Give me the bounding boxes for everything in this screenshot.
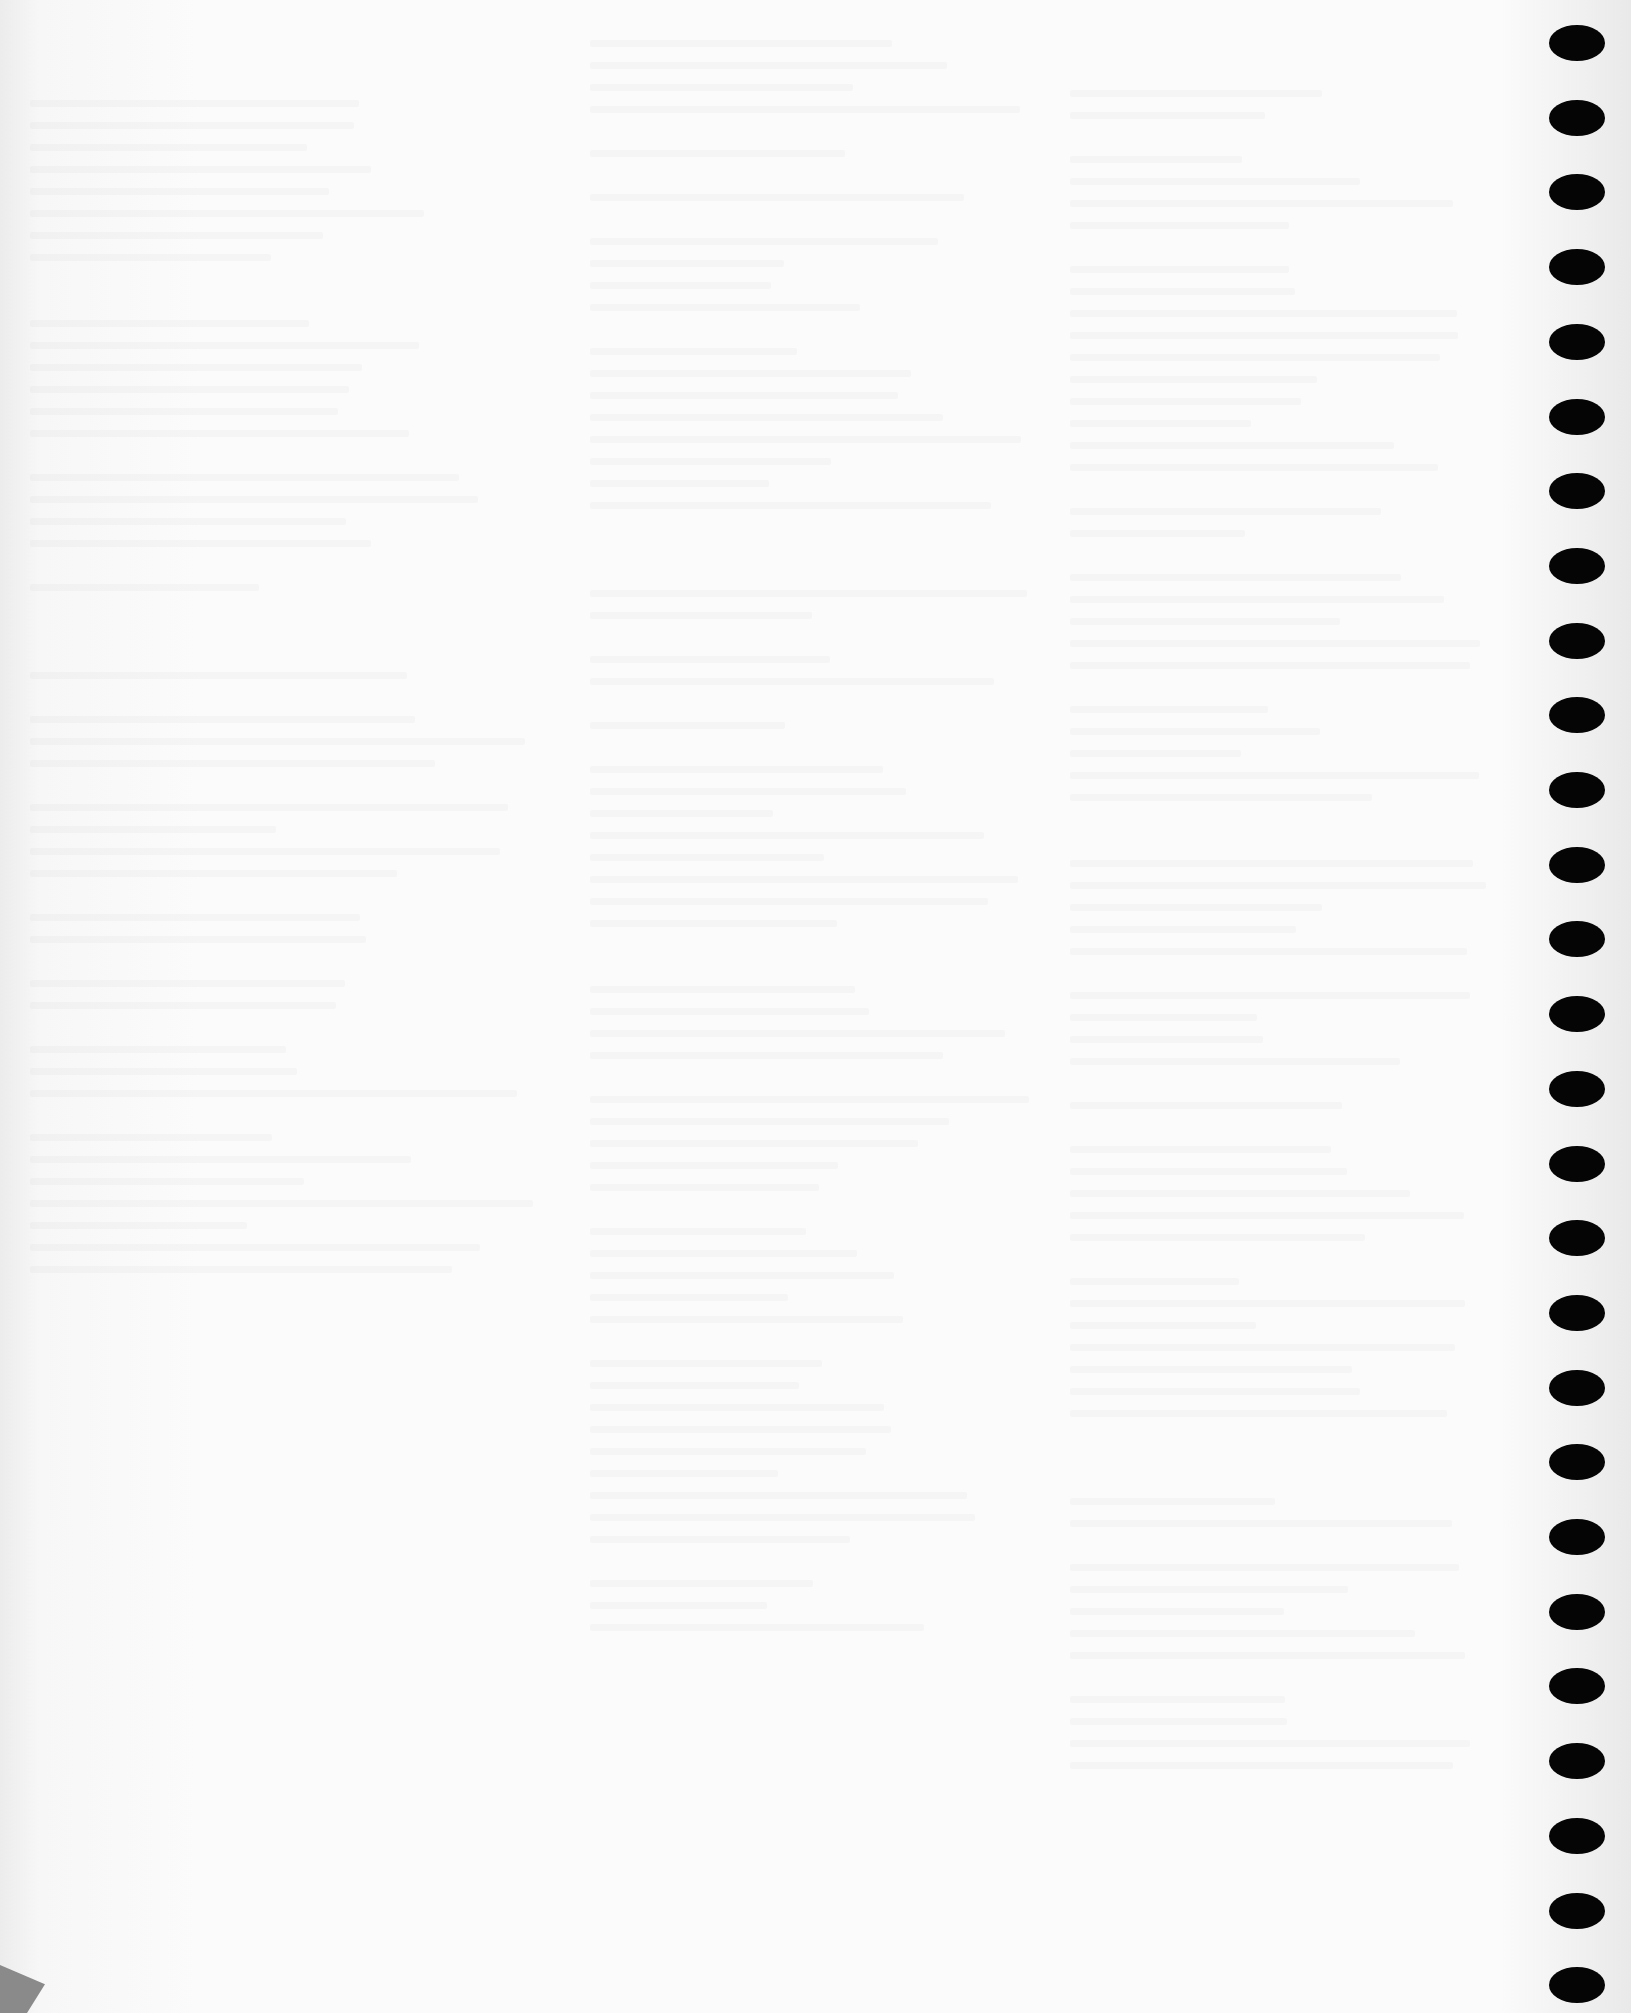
bleed-through-line (1070, 1300, 1465, 1307)
bleed-through-line (1070, 706, 1268, 713)
bleed-through-line (30, 584, 259, 591)
bleed-through-line (1070, 332, 1458, 339)
bleed-through-line (1070, 728, 1320, 735)
bleed-through-line (590, 1184, 819, 1191)
bleed-through-line (1070, 310, 1457, 317)
bleed-through-line (1070, 948, 1467, 955)
binding-hole (1549, 473, 1605, 509)
bleed-through-line (1070, 354, 1440, 361)
bleed-through-line (1070, 398, 1301, 405)
bleed-through-line (1070, 1168, 1347, 1175)
bleed-through-line (590, 282, 771, 289)
bleed-through-line (30, 122, 354, 129)
bleed-through-line (1070, 618, 1340, 625)
bleed-through-line (1070, 1344, 1455, 1351)
bleed-through-line (590, 722, 785, 729)
bleed-through-line (30, 210, 424, 217)
binding-hole (1549, 1146, 1605, 1182)
bleed-through-line (1070, 794, 1372, 801)
bleed-through-line (30, 430, 409, 437)
bleed-through-line (590, 1426, 891, 1433)
bleed-through-line (590, 1228, 806, 1235)
bleed-through-line (1070, 1234, 1365, 1241)
binding-hole (1549, 1743, 1605, 1779)
bleed-through-line (590, 436, 1021, 443)
binding-hole (1549, 1220, 1605, 1256)
binding-hole (1549, 399, 1605, 435)
bleed-through-line (30, 540, 371, 547)
bleed-through-line (1070, 1630, 1415, 1637)
bleed-through-line (590, 590, 1027, 597)
bleed-through-line (590, 788, 906, 795)
bleed-through-line (1070, 1014, 1257, 1021)
bleed-through-line (1070, 1520, 1452, 1527)
bleed-through-line (30, 870, 397, 877)
bleed-through-line (1070, 530, 1245, 537)
bleed-through-line (590, 1514, 975, 1521)
bleed-through-line (30, 496, 478, 503)
bleed-through-line (590, 414, 943, 421)
bleed-through-line (1070, 1388, 1360, 1395)
binding-hole (1549, 249, 1605, 285)
bleed-through-line (1070, 1036, 1263, 1043)
bleed-through-line (1070, 1498, 1275, 1505)
bleed-through-line (1070, 464, 1438, 471)
binding-hole (1549, 1967, 1605, 2003)
bleed-through-line (1070, 178, 1360, 185)
bleed-through-line (30, 1266, 452, 1273)
bleed-through-line (590, 1294, 788, 1301)
bleed-through-line (590, 1096, 1029, 1103)
bleed-through-line (1070, 420, 1251, 427)
bleed-through-line (590, 1052, 943, 1059)
bleed-through-line (590, 106, 1020, 113)
bleed-through-line (590, 678, 994, 685)
bleed-through-line (590, 458, 831, 465)
bleed-through-line (590, 1008, 869, 1015)
bleed-through-line (30, 1222, 247, 1229)
binding-hole (1549, 1594, 1605, 1630)
binding-hole (1549, 25, 1605, 61)
bleed-through-line (590, 986, 855, 993)
bleed-through-line (30, 1244, 480, 1251)
bleed-through-line (30, 1090, 517, 1097)
binding-hole (1549, 100, 1605, 136)
bleed-through-line (30, 716, 415, 723)
bleed-through-line (30, 1046, 286, 1053)
binding-hole (1549, 623, 1605, 659)
bleed-through-line (30, 826, 276, 833)
binding-hole (1549, 1444, 1605, 1480)
bleed-through-line (1070, 772, 1479, 779)
bleed-through-line (1070, 112, 1265, 119)
bleed-through-line (30, 1134, 272, 1141)
binding-hole (1549, 1295, 1605, 1331)
corner-mark (0, 1965, 45, 2013)
bleed-through-line (590, 1624, 924, 1631)
bleed-through-line (30, 848, 500, 855)
bleed-through-line (1070, 1564, 1459, 1571)
bleed-through-line (590, 502, 991, 509)
bleed-through-line (30, 100, 359, 107)
bleed-through-line (30, 1178, 304, 1185)
bleed-through-line (590, 854, 824, 861)
binding-hole (1549, 548, 1605, 584)
bleed-through-line (590, 810, 773, 817)
bleed-through-line (30, 166, 371, 173)
bleed-through-line (590, 1272, 894, 1279)
binding-hole (1549, 996, 1605, 1032)
bleed-through-line (30, 320, 309, 327)
bleed-through-line (1070, 1366, 1352, 1373)
bleed-through-line (1070, 508, 1381, 515)
bleed-through-line (1070, 1652, 1465, 1659)
bleed-through-line (590, 832, 984, 839)
bleed-through-line (1070, 574, 1401, 581)
bleed-through-line (1070, 882, 1486, 889)
bleed-through-line (590, 898, 988, 905)
bleed-through-line (590, 392, 898, 399)
bleed-through-line (1070, 1762, 1453, 1769)
bleed-through-line (1070, 904, 1322, 911)
bleed-through-line (590, 1030, 1005, 1037)
bleed-through-line (30, 474, 459, 481)
bleed-through-line (590, 766, 883, 773)
bleed-through-line (590, 480, 769, 487)
bleed-through-line (30, 408, 338, 415)
